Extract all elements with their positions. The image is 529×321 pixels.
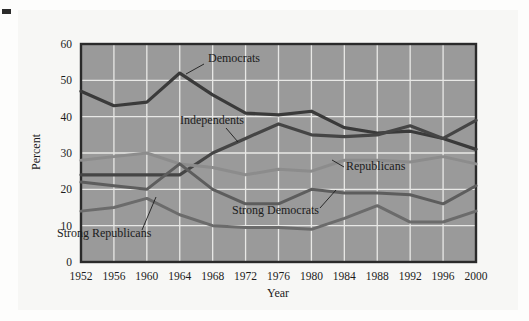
- y-axis-title: Percent: [29, 133, 43, 170]
- x-tick-label: 1988: [366, 270, 389, 282]
- x-tick-label: 1952: [70, 270, 93, 282]
- y-tick-label: 60: [61, 38, 73, 50]
- x-tick-label: 1976: [267, 270, 290, 282]
- x-tick-label: 1992: [399, 270, 422, 282]
- x-tick-label: 1964: [168, 270, 191, 282]
- annotation-label-strong-republicans: Strong Republicans: [57, 226, 152, 240]
- chart-canvas: 0102030405060 19521956196019641968197219…: [0, 0, 529, 321]
- x-tick-label: 1980: [300, 270, 323, 282]
- x-axis-title: Year: [267, 286, 289, 300]
- x-tick-label: 1960: [135, 270, 158, 282]
- annotation-label-democrats: Democrats: [208, 51, 260, 65]
- x-tick-label: 1972: [234, 270, 257, 282]
- x-tick-label: 1956: [102, 270, 125, 282]
- figure-root: 0102030405060 19521956196019641968197219…: [0, 0, 529, 321]
- x-tick-label: 1984: [333, 270, 356, 282]
- annotation-label-republicans: Republicans: [346, 159, 406, 173]
- y-tick-label: 40: [61, 111, 73, 123]
- x-tick-label: 1968: [201, 270, 224, 282]
- y-tick-label: 20: [61, 183, 73, 195]
- x-axis-tick-labels: 1952195619601964196819721976198019841988…: [70, 270, 488, 282]
- annotation-label-independents: Independents: [180, 113, 244, 127]
- annotation-label-strong-democrats: Strong Democrats: [232, 203, 319, 217]
- y-tick-label: 30: [61, 147, 73, 159]
- y-tick-label: 50: [61, 74, 73, 86]
- y-tick-label: 0: [66, 256, 72, 268]
- x-tick-label: 1996: [432, 270, 455, 282]
- line-chart: 0102030405060 19521956196019641968197219…: [0, 0, 529, 321]
- x-tick-label: 2000: [465, 270, 488, 282]
